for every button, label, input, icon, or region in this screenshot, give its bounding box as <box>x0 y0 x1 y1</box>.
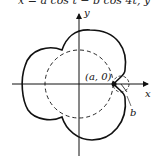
b-pointer <box>127 96 131 106</box>
y-axis-label: y <box>83 7 90 18</box>
x-axis-label: x <box>145 88 151 99</box>
diagram: x y (a, 0) b <box>0 0 157 163</box>
point-label: (a, 0) <box>85 71 112 82</box>
radius-label: b <box>130 107 136 118</box>
point-a0 <box>112 82 117 87</box>
epicycloid-curve <box>22 30 125 140</box>
radius-b-line <box>121 84 127 92</box>
